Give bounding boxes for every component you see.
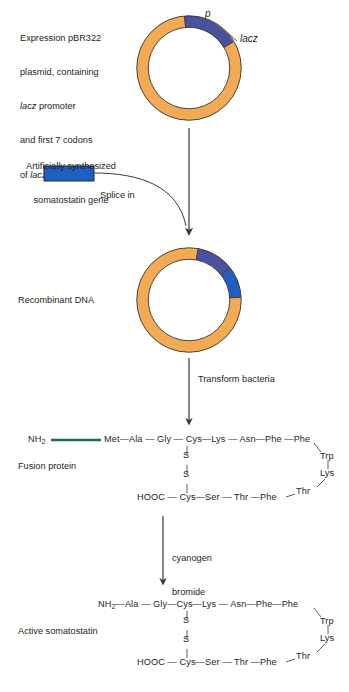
bond: — [282,434,294,444]
plasmid-recombinant-tick-3 [230,297,242,298]
splice-in-label: Splice in [100,190,135,201]
fusion-disulfide-s1: S [183,450,189,460]
fusion-res-asn: Asn [240,434,256,444]
active-res-phe-bottom: Phe [260,657,277,667]
bond: — [193,599,202,609]
bond: — [116,599,125,609]
fusion-res-lys-loop: Lys [320,468,334,478]
active-res-gly: Gly [153,599,167,609]
bond: — [256,434,265,444]
bond: — [248,657,260,667]
active-res-thr-bottom: Thr [234,657,248,667]
bond: — [165,492,180,502]
fusion-res-trp: Trp [320,451,334,461]
fusion-res-gly: Gly [157,434,171,444]
fusion-res-phe-bottom: Phe [260,492,277,502]
active-bond-lys-thr [317,644,325,652]
fusion-n-terminus: NH2 [28,434,46,446]
active-res-ser: Ser [205,657,220,667]
fusion-protein-bonds [51,440,328,497]
bond: — [171,434,186,444]
plasmid-recombinant-inner-outline [148,259,230,341]
fusion-protein-label: Fusion protein [18,461,76,472]
fusion-res-thr-loop: Thr [296,486,310,496]
active-res-asn: Asn [230,599,246,609]
fusion-res-thr-bottom: Thr [234,492,248,502]
fusion-res-cys: Cys [186,434,202,444]
bond: — [248,492,260,502]
plasmid-promoter-label: p [205,8,211,19]
fusion-nh2-subscript: 2 [41,437,45,446]
plasmid-recombinant [137,248,242,353]
active-somatostatin-label: Active somatostatin [18,626,98,637]
plasmid-top-inner-outline [148,27,230,109]
active-hooc: HOOC [137,657,165,667]
active-res-thr-loop: Thr [296,651,310,661]
transform-bacteria-label: Transform bacteria [198,374,275,385]
bond: — [120,434,129,444]
bond: — [143,434,158,444]
bond: — [216,599,230,609]
plasmid-recombinant-lacz-arc [197,254,226,271]
fusion-res-phe1: Phe [265,434,282,444]
bond: — [220,492,234,502]
active-top-chain: NH2—Ala — Gly—Cys—Lys — Asn—Phe—Phe [98,599,298,611]
bond: — [220,657,234,667]
active-res-ala: Ala [125,599,139,609]
active-bond-thr-phe [286,659,295,662]
active-res-lys-loop: Lys [320,633,334,643]
active-res-trp: Trp [320,616,334,626]
fusion-bond-thr-phe [286,494,295,497]
fusion-bottom-chain: HOOC — Cys—Ser — Thr —Phe [137,492,277,502]
active-res-lys: Lys [202,599,216,609]
recombinant-dna-label: Recombinant DNA [18,295,94,306]
active-disulfide-s1: S [183,615,189,625]
bond: — [272,599,281,609]
fusion-res-met: Met [104,434,120,444]
plasmid-top-lacz-arc [185,22,229,45]
fusion-res-ser: Ser [205,492,220,502]
fusion-top-chain: Met—Ala — Gly — Cys—Lys — Asn—Phe —Phe [104,434,310,444]
cyanogen-bromide-line1: cyanogen [172,553,212,564]
active-res-cys: Cys [176,599,192,609]
bond: — [196,492,205,502]
active-nh2: NH [98,599,111,609]
fusion-nh2: NH [28,434,41,444]
somatostatin-gene-caption: Artificially synthesized somatostatin ge… [16,138,126,229]
cyanogen-bromide-line2: bromide [172,587,212,598]
bond: — [138,599,153,609]
bond: — [165,657,180,667]
active-res-phe1: Phe [256,599,273,609]
fusion-res-cys-bottom: Cys [180,492,196,502]
bond: — [225,434,239,444]
bond: — [196,657,205,667]
fusion-bond-lys-thr [317,479,325,487]
fusion-disulfide-s2: S [183,469,189,479]
bond: — [202,434,211,444]
fusion-hooc: HOOC [137,492,165,502]
bond: — [246,599,255,609]
figure-canvas: Expression pBR322 plasmid, containing la… [0,0,349,692]
fusion-res-lys: Lys [211,434,225,444]
active-res-cys-bottom: Cys [180,657,196,667]
plasmid-lacz-label: lacz [240,33,258,44]
fusion-res-ala: Ala [129,434,143,444]
active-res-phe2: Phe [282,599,299,609]
plasmid-top [137,16,242,121]
fusion-res-phe2: Phe [294,434,311,444]
gene-caption-line1: Artificially synthesized [16,161,126,172]
active-disulfide-s2: S [183,634,189,644]
active-bottom-chain: HOOC — Cys—Ser — Thr —Phe [137,657,277,667]
